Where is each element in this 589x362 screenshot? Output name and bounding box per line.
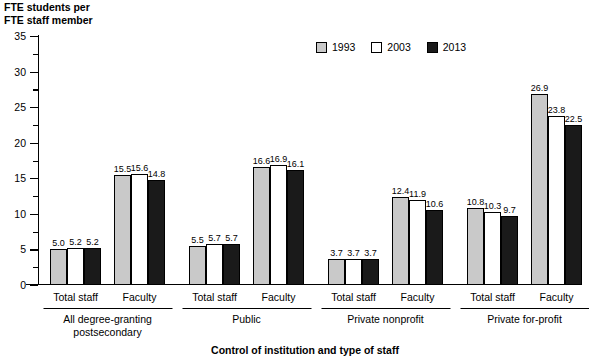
group-divider-rule <box>182 308 311 309</box>
bar[interactable] <box>287 170 304 285</box>
bar[interactable] <box>565 125 582 285</box>
y-tick-major <box>30 36 38 37</box>
y-tick-minor <box>33 196 38 197</box>
x-sublabel-total-staff: Total staff <box>53 291 98 303</box>
bar-value-label: 14.8 <box>145 169 169 179</box>
bar[interactable] <box>114 175 131 285</box>
bar[interactable] <box>531 94 548 285</box>
x-axis-title: Control of institution and type of staff <box>211 344 399 356</box>
bar-value-label: 26.9 <box>528 83 552 93</box>
x-sublabel-total-staff: Total staff <box>470 291 515 303</box>
bar[interactable] <box>362 259 379 285</box>
legend-swatch-icon <box>316 42 327 53</box>
bar[interactable] <box>270 165 287 285</box>
group-divider-rule <box>460 308 589 309</box>
x-sublabel-total-staff: Total staff <box>192 291 237 303</box>
bar[interactable] <box>206 244 223 285</box>
y-tick-label: 15 <box>0 172 26 184</box>
y-tick-minor <box>33 232 38 233</box>
y-tick-minor <box>33 267 38 268</box>
bar[interactable] <box>548 116 565 285</box>
bar[interactable] <box>131 174 148 285</box>
bar[interactable] <box>484 212 501 285</box>
bar-value-label: 10.6 <box>423 199 447 209</box>
x-sublabel-faculty: Faculty <box>262 291 296 303</box>
x-group-label: Private nonprofit <box>347 313 423 326</box>
chart-legend: 199320032013 <box>316 41 466 53</box>
y-tick-label: 35 <box>0 30 26 42</box>
y-tick-label: 25 <box>0 101 26 113</box>
bar-value-label: 16.1 <box>284 159 308 169</box>
bar[interactable] <box>253 167 270 285</box>
y-tick-major <box>30 249 38 250</box>
legend-entry-2013[interactable]: 2013 <box>427 41 466 53</box>
bar[interactable] <box>409 200 426 285</box>
x-group-label: All degree-granting postsecondary <box>63 313 152 338</box>
y-tick-major <box>30 72 38 73</box>
y-tick-label: 5 <box>0 243 26 255</box>
x-group-label: Public <box>232 313 261 326</box>
bar[interactable] <box>345 259 362 285</box>
group-divider-rule <box>43 308 172 309</box>
bar-value-label: 22.5 <box>562 114 586 124</box>
bar[interactable] <box>467 208 484 285</box>
x-sublabel-faculty: Faculty <box>401 291 435 303</box>
bar[interactable] <box>501 216 518 285</box>
group-divider-rule <box>321 308 450 309</box>
x-sublabel-total-staff: Total staff <box>331 291 376 303</box>
bar[interactable] <box>426 210 443 285</box>
bar-value-label: 5.2 <box>81 237 105 247</box>
bar[interactable] <box>148 180 165 285</box>
bar[interactable] <box>50 249 67 285</box>
bar[interactable] <box>189 246 206 285</box>
bar-value-label: 5.7 <box>220 233 244 243</box>
x-group-label: Private for-profit <box>487 313 562 326</box>
x-sublabel-faculty: Faculty <box>540 291 574 303</box>
bar[interactable] <box>84 248 101 285</box>
y-tick-major <box>30 178 38 179</box>
y-tick-major <box>30 107 38 108</box>
y-tick-minor <box>33 161 38 162</box>
y-tick-major <box>30 214 38 215</box>
plot-area: 05101520253035 5.05.25.215.515.614.85.55… <box>38 36 572 285</box>
legend-entry-1993[interactable]: 1993 <box>316 41 355 53</box>
bar[interactable] <box>67 248 84 285</box>
y-tick-label: 20 <box>0 137 26 149</box>
y-tick-minor <box>33 125 38 126</box>
y-tick-label: 30 <box>0 66 26 78</box>
bar[interactable] <box>392 197 409 285</box>
y-tick-minor <box>33 54 38 55</box>
legend-entry-2003[interactable]: 2003 <box>371 41 410 53</box>
y-tick-minor <box>33 89 38 90</box>
bar[interactable] <box>223 244 240 285</box>
y-tick-label: 10 <box>0 208 26 220</box>
y-tick-major <box>30 143 38 144</box>
x-sublabel-faculty: Faculty <box>123 291 157 303</box>
legend-label: 1993 <box>332 41 355 53</box>
bar-value-label: 9.7 <box>498 205 522 215</box>
y-tick-major <box>30 285 38 286</box>
legend-swatch-icon <box>427 42 438 53</box>
legend-swatch-icon <box>371 42 382 53</box>
bar[interactable] <box>328 259 345 285</box>
y-axis-title: FTE students per FTE staff member <box>4 1 93 27</box>
bar-value-label: 3.7 <box>359 248 383 258</box>
legend-label: 2013 <box>443 41 466 53</box>
legend-label: 2003 <box>387 41 410 53</box>
y-tick-label: 0 <box>0 279 26 291</box>
